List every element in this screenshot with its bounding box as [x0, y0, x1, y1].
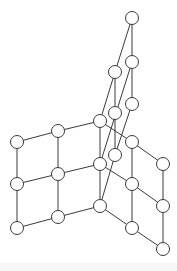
node-r6 [157, 243, 170, 256]
node-i [94, 200, 107, 213]
node-l3 [11, 178, 24, 191]
bottom-band [0, 263, 177, 271]
node-b [126, 56, 139, 69]
edges-group [17, 18, 163, 249]
node-f [109, 149, 122, 162]
node-d [126, 98, 139, 111]
node-r2 [157, 158, 170, 171]
lattice-diagram [0, 0, 177, 271]
node-g [94, 115, 107, 128]
node-r4 [157, 200, 170, 213]
node-h [94, 158, 107, 171]
node-r3 [126, 178, 139, 191]
node-l5 [11, 222, 24, 235]
nodes-group [11, 12, 170, 256]
node-a [126, 12, 139, 25]
node-l4 [52, 168, 65, 181]
node-l6 [52, 211, 65, 224]
node-l2 [52, 125, 65, 138]
node-r1 [126, 136, 139, 149]
node-c [109, 66, 122, 79]
node-e [109, 107, 122, 120]
node-l1 [11, 136, 24, 149]
node-r5 [126, 222, 139, 235]
